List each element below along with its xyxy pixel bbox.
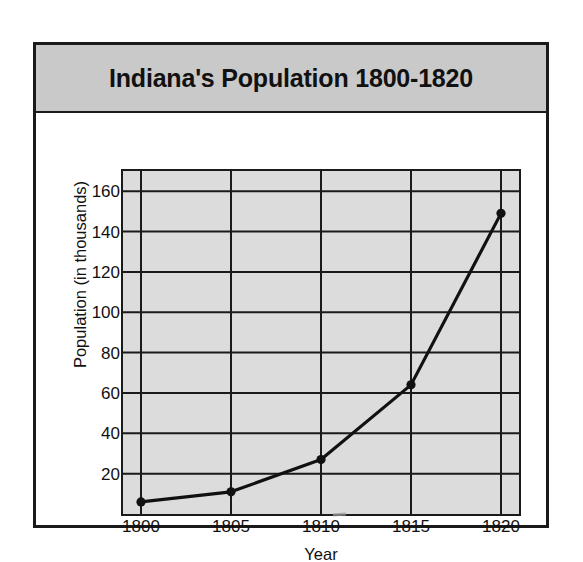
data-point-marker[interactable] [136,497,145,506]
x-axis-title: Year [121,545,521,562]
y-tick-label: 20 [74,465,120,482]
y-tick-label: 160 [74,183,120,200]
chart-body: Population (in thousands) 20406080100120… [36,113,546,525]
data-point-marker[interactable] [316,455,325,464]
plot-svg [123,171,519,514]
data-point-marker[interactable] [496,209,505,218]
x-tick-label: 1815 [392,517,430,537]
y-axis-tick-labels: 20406080100120140160 [54,113,120,525]
y-tick-label: 140 [74,223,120,240]
y-tick-label: 60 [74,384,120,401]
y-tick-label: 80 [74,344,120,361]
data-point-marker[interactable] [406,380,415,389]
data-point-marker[interactable] [226,487,235,496]
y-tick-label: 100 [74,304,120,321]
y-tick-label: 120 [74,263,120,280]
title-banner: Indiana's Population 1800-1820 [36,45,546,113]
x-axis-tick-labels: 18001805181018151820 [121,517,521,547]
y-tick-label: 40 [74,425,120,442]
x-tick-label: 1820 [482,517,520,537]
x-tick-label: 1800 [122,517,160,537]
figure-frame: Indiana's Population 1800-1820 Populatio… [33,42,549,528]
x-tick-label: 1805 [212,517,250,537]
x-tick-label: 1810 [302,517,340,537]
plot-area [121,169,521,516]
chart-title: Indiana's Population 1800-1820 [109,64,473,93]
